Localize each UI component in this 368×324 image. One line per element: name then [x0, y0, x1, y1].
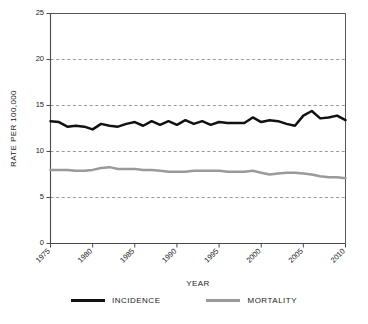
- y-axis-tick-marks: [47, 14, 51, 244]
- legend-item-incidence: INCIDENCE: [71, 296, 161, 305]
- legend-label-incidence: INCIDENCE: [112, 296, 161, 305]
- legend-item-mortality: MORTALITY: [206, 296, 297, 305]
- y-tick-label: 10: [36, 146, 44, 155]
- legend-swatch-mortality: [206, 299, 240, 302]
- data-series: [51, 111, 346, 178]
- series-line-incidence: [51, 111, 346, 129]
- x-axis-tick-marks: [51, 244, 346, 248]
- y-tick-label: 5: [40, 192, 44, 201]
- x-tick-label: 1995: [202, 247, 220, 265]
- x-tick-label: 1985: [118, 247, 136, 265]
- line-chart: 0510152025 19751980198519901995200020052…: [0, 0, 368, 324]
- legend-label-mortality: MORTALITY: [247, 296, 297, 305]
- y-axis-title: RATE PER 100,000: [9, 90, 18, 167]
- y-tick-label: 25: [36, 8, 44, 17]
- y-tick-label: 0: [40, 238, 44, 247]
- plot-area: 0510152025 19751980198519901995200020052…: [0, 0, 368, 296]
- series-line-mortality: [51, 167, 346, 178]
- x-tick-label: 2000: [244, 247, 262, 265]
- x-tick-label: 1990: [160, 247, 178, 265]
- x-tick-label: 1980: [76, 247, 94, 265]
- y-axis-tick-labels: 0510152025: [36, 8, 44, 247]
- x-axis-tick-labels: 19751980198519901995200020052010: [34, 247, 347, 265]
- x-tick-label: 1975: [34, 247, 52, 265]
- x-axis-title: YEAR: [186, 279, 209, 288]
- chart-legend: INCIDENCE MORTALITY: [0, 296, 368, 305]
- legend-swatch-incidence: [71, 299, 105, 302]
- y-tick-label: 20: [36, 54, 44, 63]
- y-tick-label: 15: [36, 100, 44, 109]
- x-tick-label: 2010: [329, 247, 347, 265]
- x-tick-label: 2005: [287, 247, 305, 265]
